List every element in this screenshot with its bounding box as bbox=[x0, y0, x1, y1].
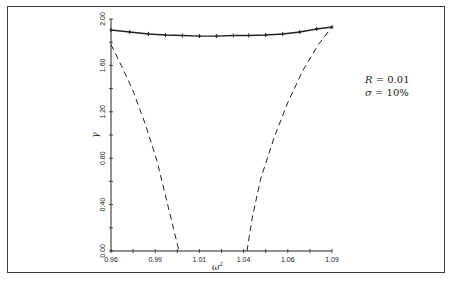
x-axis-label: ω2 bbox=[212, 260, 223, 272]
series-dashed-right bbox=[247, 27, 332, 251]
y-tick-label: 2.00 bbox=[99, 12, 106, 26]
y-tick-label: 0.40 bbox=[99, 198, 106, 212]
x-tick-label: 1.04 bbox=[237, 256, 251, 263]
chart-plot: 0.960.991.011.041.061.090.000.400.801.20… bbox=[0, 0, 452, 284]
y-axis-label: γ bbox=[90, 132, 100, 137]
x-tick-label: 0.99 bbox=[148, 256, 162, 263]
y-tick-label: 0.80 bbox=[99, 151, 106, 165]
annotation-r: R = 0.01 bbox=[365, 73, 410, 86]
chart-annotation: R = 0.01 σ = 10% bbox=[365, 73, 410, 99]
y-tick-label: 1.60 bbox=[99, 58, 106, 72]
x-tick-label: 1.06 bbox=[281, 256, 295, 263]
series-dashed-left bbox=[111, 45, 179, 252]
y-tick-label: 0.00 bbox=[99, 244, 106, 258]
x-tick-label: 0.96 bbox=[104, 256, 118, 263]
x-tick-label: 1.01 bbox=[193, 256, 207, 263]
annotation-sigma: σ = 10% bbox=[365, 86, 410, 99]
y-tick-label: 1.20 bbox=[99, 105, 106, 119]
x-tick-label: 1.09 bbox=[325, 256, 339, 263]
